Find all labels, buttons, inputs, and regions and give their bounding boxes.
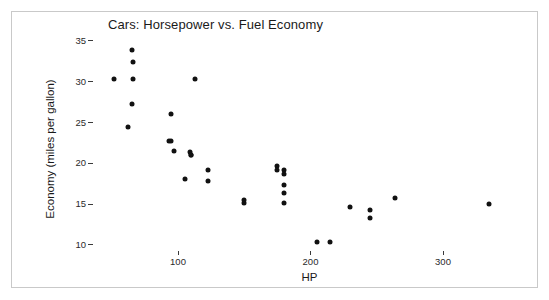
data-point — [348, 204, 353, 209]
x-axis-tick-mark — [310, 251, 311, 255]
data-point — [130, 60, 135, 65]
data-point — [189, 153, 194, 158]
data-point — [125, 125, 130, 130]
data-point — [206, 179, 211, 184]
data-point — [282, 190, 287, 195]
data-point — [242, 198, 247, 203]
scatter-plot: Cars: Horsepower vs. Fuel Economy Econom… — [0, 0, 549, 300]
data-point — [169, 138, 174, 143]
y-axis-tick: 25 — [75, 117, 93, 128]
y-axis-tick-mark — [88, 40, 93, 41]
x-axis-tick: 200 — [291, 251, 331, 267]
screenshot-root: Cars: Horsepower vs. Fuel Economy Econom… — [0, 0, 549, 300]
y-axis-tick: 10 — [75, 239, 93, 250]
y-axis-tick-mark — [88, 204, 93, 205]
data-point — [129, 101, 134, 106]
data-point — [393, 195, 398, 200]
y-axis-tick-label: 15 — [75, 198, 86, 209]
x-axis-tick-mark — [178, 251, 179, 255]
x-axis-tick-label: 300 — [435, 256, 451, 267]
x-axis-tick-mark — [443, 251, 444, 255]
x-axis-tick: 100 — [158, 251, 198, 267]
data-point — [129, 47, 134, 52]
data-point — [282, 183, 287, 188]
data-point — [112, 76, 117, 81]
y-axis-tick: 20 — [75, 157, 93, 168]
data-point — [368, 216, 373, 221]
y-axis-label: Economy (miles per gallon) — [44, 54, 56, 244]
data-point — [169, 112, 174, 117]
y-axis-tick-mark — [88, 81, 93, 82]
data-point — [315, 239, 320, 244]
data-point — [328, 239, 333, 244]
data-point — [193, 76, 198, 81]
y-axis-tick-mark — [88, 122, 93, 123]
y-axis-tick-mark — [88, 163, 93, 164]
y-axis-tick: 30 — [75, 76, 93, 87]
y-axis-tick: 35 — [75, 35, 93, 46]
data-point — [182, 176, 187, 181]
chart-title: Cars: Horsepower vs. Fuel Economy — [0, 17, 549, 32]
x-axis-tick-label: 100 — [170, 256, 186, 267]
y-axis-tick-label: 35 — [75, 35, 86, 46]
y-axis-tick-label: 30 — [75, 76, 86, 87]
data-point — [172, 149, 177, 154]
y-axis-tick-mark — [88, 244, 93, 245]
data-point — [206, 167, 211, 172]
y-axis-tick-label: 25 — [75, 117, 86, 128]
data-point — [282, 200, 287, 205]
y-axis-tick-label: 20 — [75, 157, 86, 168]
x-axis-tick-label: 200 — [303, 256, 319, 267]
data-point — [275, 167, 280, 172]
x-axis-label: HP — [0, 271, 549, 283]
data-point — [130, 76, 135, 81]
data-point — [487, 202, 492, 207]
y-axis-tick-label: 10 — [75, 239, 86, 250]
data-point — [368, 207, 373, 212]
data-point — [282, 167, 287, 172]
x-axis-tick: 300 — [423, 251, 463, 267]
y-axis-tick: 15 — [75, 198, 93, 209]
